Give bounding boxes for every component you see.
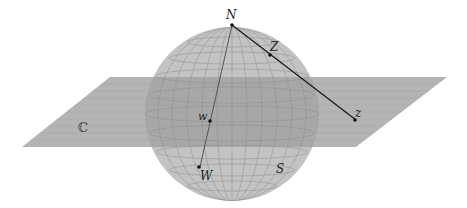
label-S: S [276,162,284,176]
point-w [208,119,212,123]
label-N: N [225,8,237,22]
point-N [230,23,234,27]
label-complex-plane: ℂ [78,120,88,135]
label-W: W [200,169,214,183]
label-Z: Z [269,40,279,54]
riemann-sphere [140,27,330,201]
stereographic-projection-diagram: N Z z w W S ℂ [0,0,467,208]
label-z: z [354,106,362,120]
label-w: w [198,110,208,123]
